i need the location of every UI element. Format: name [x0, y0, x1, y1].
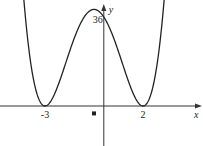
x-tick-label: -3 — [41, 109, 49, 120]
y-axis-arrow-icon — [101, 4, 106, 11]
y-tick-label: 36 — [93, 14, 103, 25]
y-axis-label: y — [108, 4, 114, 15]
x-axis-arrow-icon — [195, 104, 202, 109]
x-axis-label: x — [193, 109, 199, 120]
point-marker — [92, 111, 96, 115]
x-tick-label: 2 — [141, 109, 146, 120]
function-graph: x y -3 2 36 — [0, 0, 203, 146]
